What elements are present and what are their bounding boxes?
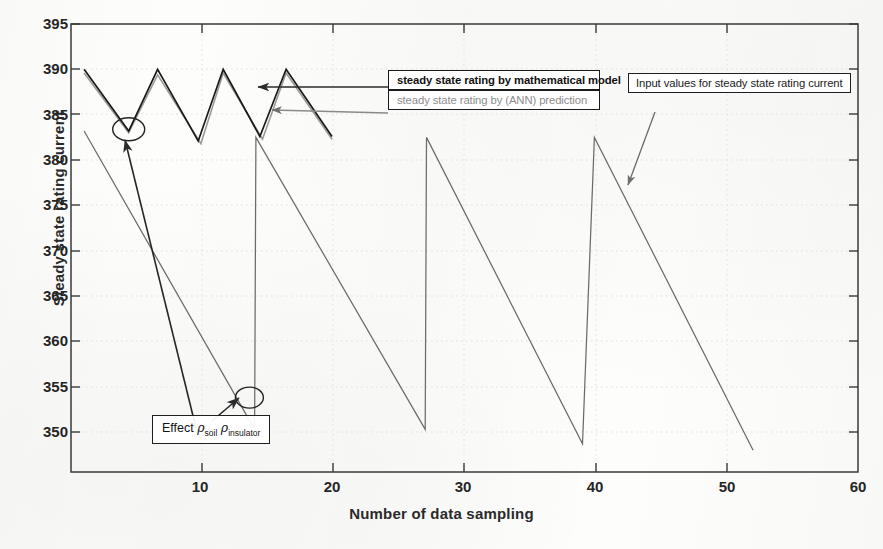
effect-lead: Effect (162, 421, 194, 435)
input-values-callout: Input values for steady state rating cur… (628, 73, 851, 93)
circle-marker-lower (235, 387, 263, 408)
legend-box: steady state rating by mathematical mode… (388, 70, 600, 110)
effect-callout: Effect ρsoil ρinsulator (152, 415, 270, 444)
chart-figure: Steady state rating current Number of da… (0, 0, 883, 549)
series-ann-prediction (84, 73, 332, 144)
series-mathematical-model (84, 69, 332, 141)
effect-arrow-upper (125, 140, 196, 428)
legend-ann-arrow (272, 110, 388, 113)
rho-symbol-soil: ρ (197, 420, 204, 435)
effect-callout-text: Effect ρsoil ρinsulator (153, 416, 269, 443)
input-values-callout-text: Input values for steady state rating cur… (629, 74, 850, 92)
legend-item-mathematical-model: steady state rating by mathematical mode… (389, 71, 599, 91)
input-callout-arrow (628, 112, 655, 185)
series-input-values (84, 131, 753, 450)
legend-item-ann-prediction: steady state rating by (ANN) prediction (389, 91, 599, 109)
rho-subscript-insulator: insulator (228, 428, 260, 438)
rho-subscript-soil: soil (205, 428, 218, 438)
